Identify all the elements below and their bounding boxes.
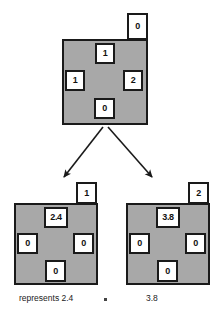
right-result-caption: 3.8 [146,293,158,303]
left-result-bottom-cell: 0 [45,260,66,282]
right-result-tab-cell: 2 [188,182,209,204]
right-result-top-cell: 3.8 [156,207,180,228]
source-tab-cell: 0 [127,13,148,40]
source-bottom-cell: 0 [94,98,115,119]
source-top-cell: 1 [95,43,115,64]
left-result-left-cell: 0 [17,233,38,254]
caption-separator-dot [104,298,107,301]
right-result-right-cell: 0 [185,233,206,254]
source-left-cell: 1 [65,70,85,91]
right-result-left-cell: 0 [129,233,150,254]
arrow-to-right-result [108,127,152,177]
right-result-bottom-cell: 0 [157,260,178,282]
left-result-caption: represents 2.4 [19,293,73,303]
left-result-tab-cell: 1 [76,182,97,204]
arrow-to-left-result [64,127,103,177]
left-result-right-cell: 0 [73,233,94,254]
source-right-cell: 2 [123,70,143,91]
diagram-canvas: 0 1 1 2 0 1 2.4 0 0 0 2 3.8 0 0 0 repres… [0,0,220,314]
left-result-top-cell: 2.4 [44,207,68,228]
